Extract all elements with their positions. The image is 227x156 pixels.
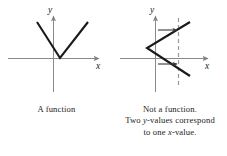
y-axis-label: y xyxy=(47,5,53,15)
caption-line-3: to one x-value. xyxy=(113,127,227,138)
caption-line-3-prefix: to one xyxy=(143,127,167,137)
y-axis-label: y xyxy=(149,5,155,15)
not-a-function-plot: y x xyxy=(113,0,227,100)
caption-line-3-suffix: -value. xyxy=(172,127,197,137)
x-axis-label: x xyxy=(95,61,101,71)
caption-line-1: Not a function. xyxy=(113,104,227,115)
figure-not-a-function: y x Not a function. Two y-values corresp… xyxy=(113,0,227,156)
function-curve xyxy=(37,22,88,58)
figure-pair-container: y x A function xyxy=(0,0,227,156)
caption-not-a-function: Not a function. Two y-values correspond … xyxy=(113,104,227,138)
caption-line-2-suffix: -values correspond xyxy=(147,115,215,125)
caption-line-1: A function xyxy=(0,104,113,115)
x-axis-label: x xyxy=(204,61,210,71)
caption-line-2: Two y-values correspond xyxy=(113,115,227,126)
caption-line-2-prefix: Two xyxy=(125,115,143,125)
a-function-plot: y x xyxy=(0,0,113,100)
figure-a-function: y x A function xyxy=(0,0,113,156)
caption-a-function: A function xyxy=(0,104,113,115)
